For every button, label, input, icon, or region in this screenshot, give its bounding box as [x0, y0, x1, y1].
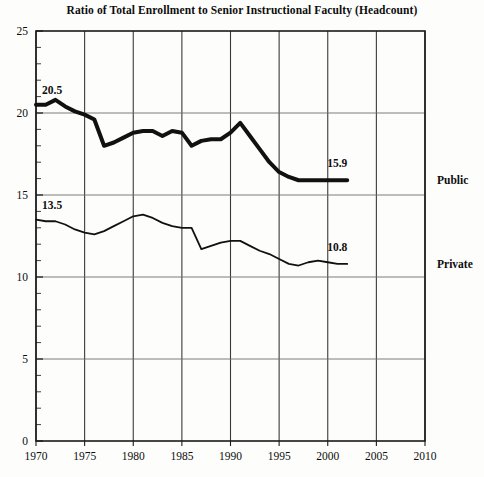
y-tick-label: 0 — [22, 435, 28, 447]
series-label-private: Private — [437, 258, 473, 270]
y-tick-label: 15 — [17, 189, 29, 201]
line-chart-svg: 0510152025 19701975198019851990199520002… — [0, 0, 484, 477]
x-axis-tick-labels: 197019751980198519901995200020052010 — [25, 450, 437, 462]
data-value-label: 15.9 — [327, 157, 347, 169]
data-value-label: 10.8 — [327, 241, 347, 253]
series-line-public — [36, 100, 347, 180]
series-legend-labels: PublicPrivate — [437, 174, 473, 270]
data-value-label: 13.5 — [42, 199, 62, 211]
value-annotations: 20.515.913.510.8 — [42, 84, 348, 253]
y-tick-label: 20 — [17, 107, 29, 119]
series-label-public: Public — [437, 174, 468, 186]
data-value-label: 20.5 — [42, 84, 62, 96]
x-tick-label: 2000 — [316, 450, 339, 462]
x-tick-label: 1990 — [219, 450, 242, 462]
y-tick-label: 25 — [17, 25, 29, 37]
x-tick-label: 1970 — [25, 450, 48, 462]
x-tick-label: 1980 — [122, 450, 145, 462]
x-tick-label: 1985 — [170, 450, 193, 462]
y-tick-label: 10 — [17, 271, 29, 283]
y-axis-tick-labels: 0510152025 — [17, 25, 29, 447]
x-tick-label: 2005 — [365, 450, 388, 462]
series-line-private — [36, 215, 347, 266]
data-series-group — [36, 100, 347, 266]
vertical-gridlines — [36, 31, 425, 441]
x-tick-label: 1975 — [73, 450, 96, 462]
x-tick-label: 1995 — [268, 450, 291, 462]
plot-area-container: 0510152025 19701975198019851990199520002… — [0, 0, 484, 477]
chart-page: Ratio of Total Enrollment to Senior Inst… — [0, 0, 484, 477]
y-tick-label: 5 — [22, 353, 28, 365]
x-tick-label: 2010 — [414, 450, 437, 462]
